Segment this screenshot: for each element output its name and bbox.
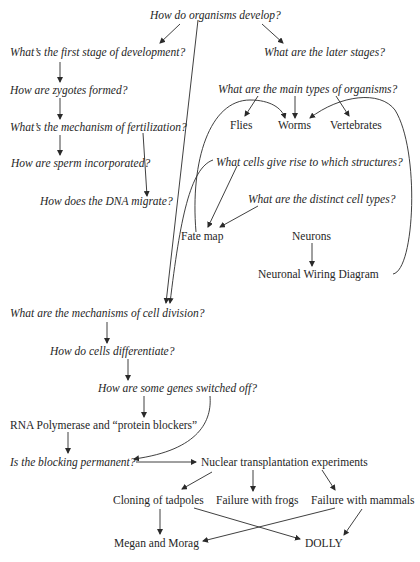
node-tadpoles: Cloning of tadpoles <box>113 493 204 507</box>
node-mammals: Failure with mammals <box>311 493 414 507</box>
node-root: How do organisms develop? <box>150 8 281 22</box>
node-first-stage: What’s the first stage of development? <box>10 45 185 59</box>
node-fate-map: Fate map <box>181 229 223 243</box>
node-cell-division: What are the mechanisms of cell division… <box>10 306 204 320</box>
node-sperm: How are sperm incorporated? <box>11 156 150 170</box>
concept-map: How do organisms develop? What’s the fir… <box>0 0 420 562</box>
node-cells-structures: What cells give rise to which structures… <box>216 155 403 169</box>
node-zygotes: How are zygotes formed? <box>10 83 127 97</box>
node-differentiate: How do cells differentiate? <box>50 344 174 358</box>
node-permanent: Is the blocking permanent? <box>10 455 136 469</box>
node-later-stages: What are the later stages? <box>264 45 385 59</box>
node-main-types: What are the main types of organisms? <box>218 82 397 96</box>
node-rna: RNA Polymerase and “protein blockers” <box>10 418 197 432</box>
node-megan: Megan and Morag <box>114 536 199 550</box>
node-frogs: Failure with frogs <box>216 493 298 507</box>
node-dna: How does the DNA migrate? <box>40 194 173 208</box>
node-fertilization: What’s the mechanism of fertilization? <box>10 120 187 134</box>
node-vertebrates: Vertebrates <box>330 118 382 132</box>
node-worms: Worms <box>278 118 311 132</box>
node-neurons: Neurons <box>292 229 331 243</box>
node-flies: Flies <box>230 118 252 132</box>
node-cell-types: What are the distinct cell types? <box>248 192 395 206</box>
node-dolly: DOLLY <box>305 536 343 550</box>
node-switched-off: How are some genes switched off? <box>98 381 257 395</box>
node-nuclear: Nuclear transplantation experiments <box>201 455 368 469</box>
node-wiring: Neuronal Wiring Diagram <box>258 267 379 281</box>
